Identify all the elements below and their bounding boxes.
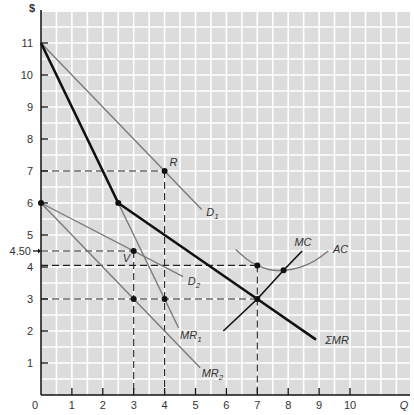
point-label-r: R	[170, 156, 178, 168]
x-axis-label: Q	[400, 399, 409, 411]
point-kink	[115, 200, 121, 206]
x-tick-label: 7	[254, 399, 260, 411]
x-tick-label: 0	[32, 399, 38, 411]
point-mr2-3	[131, 296, 137, 302]
x-tick-label: 9	[316, 399, 322, 411]
x-tick-label: 5	[192, 399, 198, 411]
x-tick-label: 1	[69, 399, 75, 411]
y-tick-label: 9	[27, 101, 33, 113]
point-ac-7	[254, 262, 260, 268]
chart: 01234567891012345678910114.50$QD1D2MR1MR…	[0, 0, 414, 415]
y-axis-label: $	[29, 2, 35, 14]
y-tick-label: 6	[27, 197, 33, 209]
point-v	[131, 248, 137, 254]
y-tick-label: 1	[27, 357, 33, 369]
curve-label-mc: MC	[294, 236, 311, 248]
y-tick-label: 7	[27, 165, 33, 177]
x-tick-label: 2	[100, 399, 106, 411]
point-origin-6	[38, 200, 44, 206]
curve-label-sigma-mr: ΣMR	[324, 334, 349, 346]
y-tick-label-4-50: 4.50	[10, 245, 31, 257]
y-tick-label: 2	[27, 325, 33, 337]
x-tick-label: 3	[131, 399, 137, 411]
y-tick-label: 10	[21, 69, 33, 81]
point-mc-smr	[254, 296, 260, 302]
x-tick-label: 8	[285, 399, 291, 411]
point-r	[162, 168, 168, 174]
y-tick-label: 8	[27, 133, 33, 145]
x-tick-label: 6	[223, 399, 229, 411]
point-mr1-3	[162, 296, 168, 302]
y-tick-label: 4	[27, 261, 33, 273]
curve-label-ac: AC	[332, 243, 348, 255]
y-tick-label: 3	[27, 293, 33, 305]
y-tick-label: 5	[27, 229, 33, 241]
x-tick-label: 4	[162, 399, 168, 411]
x-tick-label: 10	[344, 399, 356, 411]
y-tick-label: 11	[22, 37, 33, 49]
point-ac-mc	[281, 267, 287, 273]
